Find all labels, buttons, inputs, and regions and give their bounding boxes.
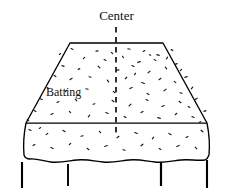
- texture-fleck: [123, 150, 125, 151]
- texture-fleck: [158, 118, 161, 119]
- texture-fleck: [89, 77, 91, 78]
- texture-fleck: [62, 66, 64, 67]
- texture-fleck: [175, 64, 177, 65]
- texture-fleck: [146, 100, 148, 101]
- texture-fleck: [138, 62, 141, 63]
- texture-fleck: [39, 128, 40, 129]
- texture-fleck: [185, 77, 187, 78]
- texture-fleck: [171, 50, 173, 51]
- texture-fleck: [93, 104, 95, 105]
- texture-fleck: [81, 136, 83, 137]
- texture-fleck: [188, 107, 190, 108]
- texture-fleck: [157, 55, 160, 56]
- texture-fleck: [180, 93, 182, 94]
- texture-fleck: [40, 99, 42, 100]
- texture-fleck: [71, 49, 73, 50]
- center-label: Center: [0, 9, 233, 22]
- diagram-canvas: [0, 0, 233, 195]
- texture-fleck: [78, 69, 80, 70]
- batting-label: Batting: [46, 86, 81, 98]
- texture-fleck: [162, 106, 164, 107]
- texture-fleck: [199, 122, 201, 123]
- texture-fleck: [123, 56, 124, 57]
- texture-fleck: [180, 69, 181, 70]
- texture-fleck: [59, 54, 60, 55]
- texture-fleck: [195, 98, 197, 100]
- texture-fleck: [204, 111, 206, 112]
- quilt-batting-diagram: Center Batting: [0, 0, 233, 195]
- texture-fleck: [191, 87, 192, 89]
- texture-fleck: [149, 55, 150, 56]
- texture-fleck: [135, 73, 136, 74]
